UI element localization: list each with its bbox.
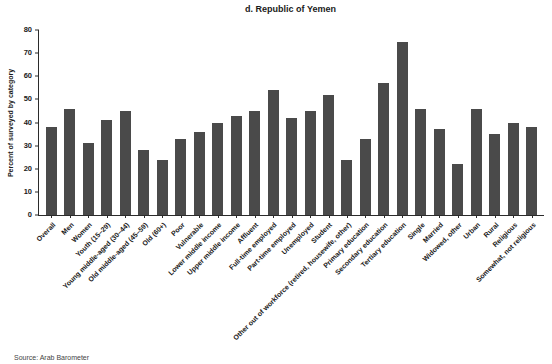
- x-tick-mark: [255, 215, 256, 218]
- bar: [175, 139, 186, 215]
- x-tick-mark: [495, 215, 496, 218]
- bar-slot: Full-time employed: [264, 30, 282, 215]
- y-tick-label: 80: [24, 26, 32, 34]
- bar: [305, 111, 316, 215]
- y-tick-mark: [35, 168, 39, 169]
- source-note: Source: Arab Barometer: [14, 354, 89, 361]
- bar: [489, 134, 500, 215]
- bar: [268, 90, 279, 215]
- x-tick-mark: [513, 215, 514, 218]
- x-tick-mark: [458, 215, 459, 218]
- bar-slot: Part-time employed: [282, 30, 300, 215]
- bar-slot: Young middle-aged (30–44): [116, 30, 134, 215]
- y-tick-mark: [35, 122, 39, 123]
- bar: [526, 127, 537, 215]
- bar-slot: Single: [412, 30, 430, 215]
- x-tick-mark: [347, 215, 348, 218]
- bars-container: OverallMenWomenYouth (15–29)Young middle…: [39, 30, 544, 215]
- bar: [120, 111, 131, 215]
- bar-slot: Unemployed: [301, 30, 319, 215]
- bar-slot: Upper middle income: [227, 30, 245, 215]
- bar: [397, 42, 408, 215]
- x-tick-mark: [88, 215, 89, 218]
- bar-slot: Widowed, other: [449, 30, 467, 215]
- bar: [101, 120, 112, 215]
- bar-slot: Married: [430, 30, 448, 215]
- y-tick-mark: [35, 191, 39, 192]
- bar-slot: Somewhat, not religious: [523, 30, 541, 215]
- y-tick-label: 40: [24, 119, 32, 127]
- x-tick-mark: [476, 215, 477, 218]
- bar: [83, 143, 94, 215]
- bar: [249, 111, 260, 215]
- bar: [378, 83, 389, 215]
- bar-slot: Women: [79, 30, 97, 215]
- x-tick-mark: [273, 215, 274, 218]
- bar-slot: Rural: [486, 30, 504, 215]
- x-tick-mark: [329, 215, 330, 218]
- x-tick-mark: [310, 215, 311, 218]
- bar-slot: Overall: [42, 30, 60, 215]
- y-axis-label-wrap: Percent of surveyed by category: [0, 30, 20, 215]
- plot-area: OverallMenWomenYouth (15–29)Young middle…: [38, 30, 544, 216]
- bar: [138, 150, 149, 215]
- bar: [194, 132, 205, 215]
- bar: [46, 127, 57, 215]
- x-tick-mark: [70, 215, 71, 218]
- y-axis-label: Percent of surveyed by category: [7, 68, 14, 176]
- x-tick-mark: [421, 215, 422, 218]
- y-tick-label: 30: [24, 142, 32, 150]
- bar: [452, 164, 463, 215]
- bar-slot: Affluent: [245, 30, 263, 215]
- x-tick-mark: [162, 215, 163, 218]
- x-tick-mark: [384, 215, 385, 218]
- y-tick-mark: [35, 30, 39, 31]
- x-tick-mark: [439, 215, 440, 218]
- bar: [286, 118, 297, 215]
- y-tick-label: 60: [24, 73, 32, 81]
- x-tick-mark: [218, 215, 219, 218]
- bar: [157, 160, 168, 216]
- x-axis-category-label: Poor: [169, 221, 185, 237]
- x-axis-category-label: Men: [60, 221, 75, 236]
- bar-slot: Secondary education: [375, 30, 393, 215]
- bar-slot: Other out of workforce (retired, housewi…: [338, 30, 356, 215]
- y-tick-mark: [35, 76, 39, 77]
- bar: [415, 109, 426, 215]
- bar: [471, 109, 482, 215]
- x-tick-mark: [365, 215, 366, 218]
- bar: [231, 116, 242, 215]
- bar: [341, 160, 352, 216]
- chart-title: d. Republic of Yemen: [38, 4, 543, 14]
- bar-slot: Urban: [467, 30, 485, 215]
- bar-slot: Poor: [171, 30, 189, 215]
- bar: [212, 123, 223, 216]
- y-tick-label: 70: [24, 49, 32, 57]
- x-tick-mark: [107, 215, 108, 218]
- y-tick-mark: [35, 99, 39, 100]
- bar: [323, 95, 334, 215]
- bar: [508, 123, 519, 216]
- x-tick-mark: [51, 215, 52, 218]
- x-tick-mark: [144, 215, 145, 218]
- y-tick-label: 0: [28, 211, 32, 219]
- bar-slot: Lower middle income: [208, 30, 226, 215]
- y-tick-mark: [35, 53, 39, 54]
- bar-slot: Men: [60, 30, 78, 215]
- bar: [64, 109, 75, 215]
- y-tick-mark: [35, 215, 39, 216]
- bar-slot: Old (60+): [153, 30, 171, 215]
- x-tick-mark: [181, 215, 182, 218]
- x-tick-mark: [125, 215, 126, 218]
- x-tick-mark: [402, 215, 403, 218]
- bar-chart: d. Republic of Yemen Percent of surveyed…: [0, 0, 552, 364]
- bar-slot: Vulnerable: [190, 30, 208, 215]
- y-tick-mark: [35, 145, 39, 146]
- x-tick-mark: [199, 215, 200, 218]
- bar-slot: Religious: [504, 30, 522, 215]
- y-tick-label: 10: [24, 188, 32, 196]
- y-tick-label: 50: [24, 96, 32, 104]
- x-tick-mark: [532, 215, 533, 218]
- x-axis-category-label: Overall: [34, 221, 56, 243]
- x-tick-mark: [292, 215, 293, 218]
